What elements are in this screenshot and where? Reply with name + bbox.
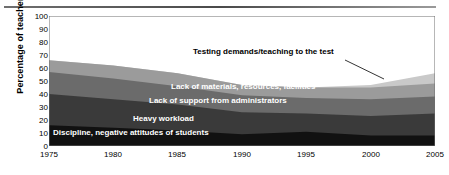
x-tick-2000: 2000 [351, 150, 391, 159]
x-tick-1985: 1985 [157, 150, 197, 159]
x-tick-1995: 1995 [286, 150, 326, 159]
x-axis-tick-labels: 1975 1980 1985 1990 1995 2000 2005 [0, 150, 440, 164]
y-tick-100: 100 [22, 13, 48, 21]
y-tick-30: 30 [22, 104, 48, 112]
y-tick-80: 80 [22, 39, 48, 47]
x-tick-1990: 1990 [222, 150, 262, 159]
heavy-workload-label: Heavy workload [133, 115, 194, 123]
y-tick-50: 50 [22, 78, 48, 86]
plot-area: Testing demands/teaching to the test Lac… [49, 16, 435, 146]
y-tick-90: 90 [22, 26, 48, 34]
x-tick-1980: 1980 [93, 150, 133, 159]
lack-of-support-label: Lack of support from administrators [149, 97, 287, 105]
y-tick-20: 20 [22, 117, 48, 125]
lack-of-materials-label: Lack of materials, resources, facilities [171, 83, 316, 91]
discipline-label: Discipline, negative attitudes of studen… [53, 129, 209, 137]
y-tick-40: 40 [22, 91, 48, 99]
y-tick-70: 70 [22, 52, 48, 60]
y-tick-60: 60 [22, 65, 48, 73]
x-tick-1975: 1975 [29, 150, 69, 159]
chart-svg [49, 16, 435, 146]
x-tick-2005: 2005 [415, 150, 449, 159]
y-tick-10: 10 [22, 130, 48, 138]
testing-demands-label: Testing demands/teaching to the test [193, 48, 334, 56]
y-axis-tick-labels: 100 90 80 70 60 50 40 30 20 10 0 [18, 0, 48, 175]
